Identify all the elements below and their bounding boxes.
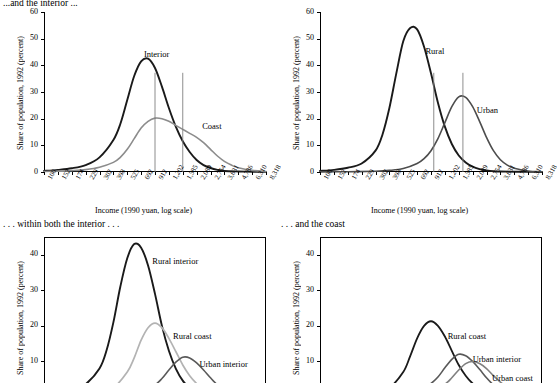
y-tick-mark	[317, 145, 320, 146]
x-tick-mark	[86, 172, 87, 175]
x-tick-mark	[389, 172, 390, 175]
y-tick-label: 10	[298, 140, 314, 149]
y-tick-mark	[41, 39, 44, 40]
series-annotation: Urban	[477, 105, 498, 115]
x-tick-mark	[431, 172, 432, 175]
y-tick-label: 40	[22, 249, 38, 258]
y-tick-mark	[41, 92, 44, 93]
y-tick-mark	[317, 92, 320, 93]
y-tick-label: 60	[22, 7, 38, 16]
caption-bottom-right: . . . and the coast	[281, 219, 345, 229]
x-tick-mark	[72, 172, 73, 175]
y-tick-label: 50	[22, 33, 38, 42]
y-tick-label: 60	[298, 7, 314, 16]
x-tick-mark	[100, 172, 101, 175]
x-tick-mark	[334, 172, 335, 175]
x-tick-mark	[211, 172, 212, 175]
x-tick-mark	[514, 172, 515, 175]
y-tick-label: 40	[298, 60, 314, 69]
y-tick-mark	[41, 145, 44, 146]
x-tick-mark	[417, 172, 418, 175]
x-tick-mark	[500, 172, 501, 175]
x-tick-mark	[183, 172, 184, 175]
panel-top-right: Share of population, 1992 (percent) 0102…	[276, 8, 551, 218]
series-annotation: Rural coast	[448, 331, 486, 341]
x-axis-label: Income (1990 yuan, log scale)	[371, 206, 468, 215]
x-tick-mark	[155, 172, 156, 175]
y-tick-mark	[317, 290, 320, 291]
y-tick-mark	[41, 12, 44, 13]
x-tick-mark	[127, 172, 128, 175]
y-tick-label: 30	[298, 87, 314, 96]
y-tick-label: 30	[22, 87, 38, 96]
y-tick-mark	[41, 326, 44, 327]
x-tick-mark	[362, 172, 363, 175]
x-tick-mark	[238, 172, 239, 175]
x-tick-mark	[252, 172, 253, 175]
y-tick-label: 50	[298, 33, 314, 42]
x-tick-mark	[113, 172, 114, 175]
y-tick-label: 20	[298, 113, 314, 122]
y-tick-label: 30	[298, 285, 314, 294]
panel-bottom-right: Share of population, 1992 (percent) 0102…	[276, 233, 551, 383]
x-tick-mark	[197, 172, 198, 175]
x-tick-mark	[459, 172, 460, 175]
y-tick-label: 20	[22, 113, 38, 122]
y-tick-mark	[317, 12, 320, 13]
panel-top-left: Share of population, 1992 (percent) 0102…	[0, 8, 275, 218]
x-tick-mark	[348, 172, 349, 175]
y-tick-label: 10	[22, 140, 38, 149]
x-tick-mark	[169, 172, 170, 175]
caption-bottom-left: . . . within both the interior . . .	[3, 219, 119, 229]
y-tick-label: 40	[298, 249, 314, 258]
x-tick-mark	[487, 172, 488, 175]
series-annotation: Rural	[425, 46, 444, 56]
y-tick-label: 10	[298, 356, 314, 365]
x-tick-mark	[403, 172, 404, 175]
y-tick-mark	[41, 65, 44, 66]
x-tick-mark	[445, 172, 446, 175]
y-tick-label: 10	[22, 356, 38, 365]
y-tick-label: 20	[22, 320, 38, 329]
x-tick-mark	[141, 172, 142, 175]
series-annotation: Rural coast	[173, 331, 211, 341]
series-annotation: Urban interior	[199, 359, 247, 369]
y-tick-label: 40	[22, 60, 38, 69]
y-tick-mark	[41, 361, 44, 362]
y-tick-mark	[41, 119, 44, 120]
x-tick-mark	[542, 172, 543, 175]
x-axis-label: Income (1990 yuan, log scale)	[95, 206, 192, 215]
series-annotation: Urban coast	[492, 373, 533, 383]
caption-top-partial: ...and the interior ...	[3, 0, 78, 8]
series-annotation: Interior	[144, 49, 170, 59]
x-tick-mark	[266, 172, 267, 175]
y-tick-mark	[317, 361, 320, 362]
y-tick-label: 0	[298, 167, 314, 176]
x-tick-mark	[376, 172, 377, 175]
series-annotation: Rural interior	[152, 256, 198, 266]
x-tick-mark	[224, 172, 225, 175]
y-tick-mark	[317, 326, 320, 327]
series-annotation: Coast	[202, 121, 221, 131]
y-tick-mark	[317, 119, 320, 120]
x-tick-mark	[320, 172, 321, 175]
x-tick-mark	[473, 172, 474, 175]
panel-bottom-left: Share of population, 1992 (percent) 0102…	[0, 233, 275, 383]
x-tick-mark	[44, 172, 45, 175]
series-annotation: Urban interior	[473, 354, 521, 364]
series-curve	[44, 323, 266, 383]
series-curve	[320, 96, 542, 172]
y-tick-label: 30	[22, 285, 38, 294]
y-tick-label: 0	[22, 167, 38, 176]
x-tick-mark	[58, 172, 59, 175]
y-tick-mark	[41, 255, 44, 256]
x-tick-mark	[528, 172, 529, 175]
y-tick-mark	[317, 65, 320, 66]
y-tick-label: 20	[298, 320, 314, 329]
y-tick-mark	[317, 255, 320, 256]
y-tick-mark	[317, 39, 320, 40]
y-tick-mark	[41, 290, 44, 291]
